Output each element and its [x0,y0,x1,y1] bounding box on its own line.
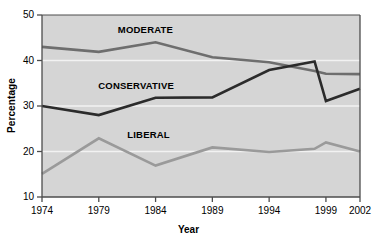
line-chart: Percentage Year 102030405019741979198419… [0,0,377,243]
x-tick-label-2002: 2002 [340,205,377,216]
x-axis-label: Year [0,224,377,235]
x-tick-label-1974: 1974 [22,205,62,216]
series-label-moderate: MODERATE [118,24,173,35]
x-tick-label-1984: 1984 [136,205,176,216]
y-tick-label-40: 40 [12,55,34,66]
y-tick-label-20: 20 [12,146,34,157]
y-tick-label-50: 50 [12,9,34,20]
y-tick-label-10: 10 [12,191,34,202]
x-tick-label-1979: 1979 [79,205,119,216]
x-tick-label-1989: 1989 [192,205,232,216]
x-tick-label-1994: 1994 [249,205,289,216]
series-label-liberal: LIBERAL [127,129,170,140]
y-tick-label-30: 30 [12,100,34,111]
series-label-conservative: CONSERVATIVE [98,80,174,91]
